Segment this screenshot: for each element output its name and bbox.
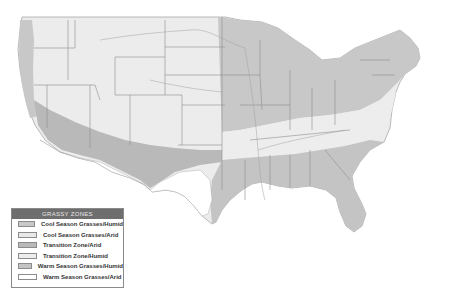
swatch-transition-humid [18,253,37,259]
legend-label: Warm Season Grasses/Humid [38,263,123,269]
legend-item-warm-humid: Warm Season Grasses/Humid [12,261,123,272]
legend-item-cool-humid: Cool Season Grasses/Humid [12,219,123,230]
legend-label: Transition Zone/Arid [43,242,101,248]
legend: GRASSY ZONES Cool Season Grasses/Humid C… [11,208,124,288]
legend-title: GRASSY ZONES [12,209,123,219]
legend-label: Cool Season Grasses/Arid [43,232,118,238]
swatch-cool-arid [18,232,37,238]
legend-item-warm-arid: Warm Season Grasses/Arid [12,272,123,283]
swatch-warm-arid [18,274,37,280]
legend-label: Cool Season Grasses/Humid [41,221,123,227]
swatch-transition-arid [18,242,37,248]
swatch-warm-humid [18,263,32,269]
legend-item-transition-humid: Transition Zone/Humid [12,251,123,262]
legend-item-cool-arid: Cool Season Grasses/Arid [12,230,123,241]
legend-label: Warm Season Grasses/Arid [43,274,121,280]
legend-label: Transition Zone/Humid [43,253,108,259]
swatch-cool-humid [18,221,35,227]
legend-item-transition-arid: Transition Zone/Arid [12,240,123,251]
